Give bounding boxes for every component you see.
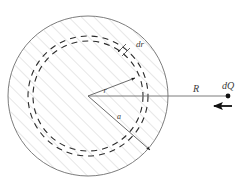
label-point-charge-dQ: dQ xyxy=(222,80,235,91)
diagram-canvas: r dr a R dQ xyxy=(0,0,242,191)
physics-diagram-figure: r dr a R dQ xyxy=(0,0,242,191)
label-shell-thickness-dr: dr xyxy=(136,39,145,49)
label-inner-radius-a: a xyxy=(117,112,121,121)
point-charge-dot xyxy=(226,94,231,99)
label-distance-R: R xyxy=(192,83,199,94)
